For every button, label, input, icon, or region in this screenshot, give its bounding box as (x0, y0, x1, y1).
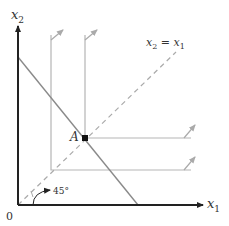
arrow-icon (51, 30, 63, 40)
arrow-icon (184, 125, 195, 138)
point-a-marker (82, 135, 88, 141)
diagonal-label: x2 = x1 (146, 36, 185, 51)
indifference-curve-outer (85, 35, 191, 138)
arrow-icon (85, 30, 97, 40)
origin-label: 0 (6, 210, 13, 223)
point-a-label: A (69, 130, 79, 144)
indifference-curve-inner (51, 35, 191, 170)
diagonal-line (18, 52, 176, 205)
arrow-icon (184, 157, 195, 170)
angle-arc (33, 190, 50, 205)
x-axis-label: x1 (207, 196, 220, 214)
diagram-canvas: x2 x1 0 x2 = x1 A 45° (0, 0, 229, 226)
preference-arrows (51, 30, 195, 170)
angle-label: 45° (53, 186, 69, 196)
y-axis-label: x2 (11, 7, 24, 25)
